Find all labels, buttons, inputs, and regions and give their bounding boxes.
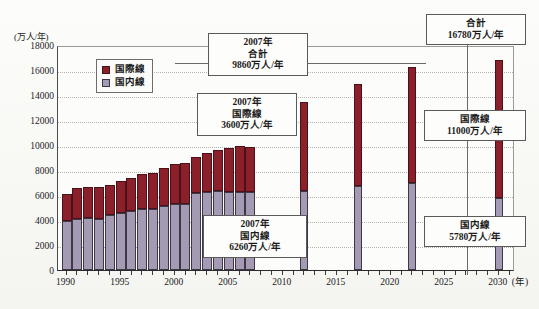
bar-segment-domestic (105, 215, 115, 270)
x-axis-tick-mark (303, 271, 304, 275)
y-axis-tick-label: 12000 (2, 117, 54, 127)
bar-segment-domestic (126, 211, 136, 271)
callout-2007-intl-line3: 3600万人/年 (204, 120, 290, 132)
x-axis-tick-mark (455, 271, 456, 275)
callout-2030-intl-line2: 11000万人/年 (431, 126, 519, 138)
bar-2002 (191, 157, 201, 270)
bar-segment-domestic (116, 213, 126, 270)
bar-2001 (180, 163, 190, 270)
bar-segment-international (408, 67, 416, 183)
bar-segment-international (213, 150, 223, 192)
x-axis-tick-mark (239, 271, 240, 275)
x-axis-tick-mark (293, 271, 294, 275)
bar-segment-international (224, 148, 234, 192)
callout-2007-dom-line2: 国内線 (210, 231, 300, 243)
bar-segment-international (94, 187, 104, 219)
callout-2030-total-line1: 合計 (433, 18, 519, 30)
bar-2022 (408, 67, 416, 270)
bar-segment-domestic (94, 219, 104, 270)
x-axis-tick-label: 2015 (326, 277, 345, 288)
legend-label-international: 国際線 (115, 64, 145, 75)
x-axis-tick-mark (271, 271, 272, 275)
bar-segment-domestic (159, 206, 169, 270)
y-axis-tick-label: 10000 (2, 142, 54, 152)
bar-1999 (159, 169, 169, 271)
x-axis-tick-mark (195, 271, 196, 275)
chart-legend: 国際線 国内線 (96, 59, 153, 93)
x-axis-tick-mark (217, 271, 218, 275)
x-axis-tick-label: 2020 (380, 277, 399, 288)
x-axis-tick-mark (163, 271, 164, 275)
x-axis-tick-label: 1995 (110, 277, 129, 288)
bar-segment-international (72, 188, 82, 219)
x-axis-tick-mark (185, 271, 186, 275)
callout-2007-total: 2007年 合計 9860万人/年 (208, 33, 308, 76)
x-axis-tick-mark (174, 271, 175, 275)
legend-swatch-domestic-icon (102, 79, 110, 87)
callout-2030-domestic: 国内線 5780万人/年 (424, 216, 526, 247)
bar-segment-international (116, 181, 126, 213)
bar-segment-international (170, 164, 180, 204)
x-axis-tick-mark (379, 271, 380, 275)
x-axis-tick-mark (509, 271, 510, 275)
x-axis-tick-mark (87, 271, 88, 275)
bar-segment-international (235, 146, 245, 191)
callout-2007-intl-line2: 国際線 (204, 109, 290, 121)
callout-2030-total-line2: 16780万人/年 (433, 30, 519, 42)
x-axis-tick-label: 1990 (56, 277, 75, 288)
bar-1997 (137, 174, 147, 270)
bar-1991 (72, 188, 82, 271)
callout-2007-dom-line1: 2007年 (210, 219, 300, 231)
bar-segment-domestic (83, 218, 93, 270)
y-axis-tick-label: 6000 (2, 192, 54, 202)
x-axis-tick-mark (260, 271, 261, 275)
callout-2007-total-line3: 9860万人/年 (215, 60, 301, 72)
x-axis-tick-label: 2025 (434, 277, 453, 288)
bar-1994 (105, 185, 115, 271)
bar-segment-international (148, 173, 158, 210)
legend-label-domestic: 国内線 (115, 77, 145, 88)
x-axis-tick-mark (325, 271, 326, 275)
bar-2017 (354, 84, 362, 270)
y-axis-tick-label: 14000 (2, 92, 54, 102)
x-axis-tick-mark (120, 271, 121, 275)
leader-line-2007-total (175, 63, 208, 64)
x-axis-tick-marks (57, 271, 514, 276)
bar-segment-domestic (170, 204, 180, 271)
callout-2030-intl-line1: 国際線 (431, 114, 519, 126)
x-axis-tick-mark (76, 271, 77, 275)
x-axis-tick-mark (347, 271, 348, 275)
x-axis-tick-mark (66, 271, 67, 275)
x-axis-tick-mark (357, 271, 358, 275)
bar-segment-domestic (180, 204, 190, 270)
bar-segment-domestic (354, 186, 362, 270)
y-axis-tick-label: 8000 (2, 167, 54, 177)
bar-segment-international (159, 168, 169, 206)
x-axis-tick-mark (206, 271, 207, 275)
y-axis-tick-labels: 1800016000140001200010000800060004000200… (0, 46, 54, 271)
bar-segment-domestic (148, 209, 158, 270)
bar-segment-international (300, 102, 308, 191)
legend-item-domestic: 国内線 (102, 76, 145, 89)
bar-1992 (83, 187, 93, 270)
y-axis-tick-label: 18000 (2, 42, 54, 52)
bar-segment-international (137, 174, 147, 209)
x-axis-tick-mark (98, 271, 99, 275)
callout-2007-total-line2: 合計 (215, 49, 301, 61)
bar-segment-international (83, 187, 93, 218)
x-axis-tick-label: 2030 (488, 277, 507, 288)
bar-2000 (170, 164, 180, 270)
legend-item-international: 国際線 (102, 63, 145, 76)
x-axis-tick-mark (228, 271, 229, 275)
x-axis-tick-label: 2005 (218, 277, 237, 288)
callout-2030-international: 国際線 11000万人/年 (424, 110, 526, 141)
bar-segment-international (245, 147, 255, 192)
x-axis-tick-labels: 199019952000200520102015202020252030(年) (0, 277, 539, 293)
bar-1998 (148, 173, 158, 271)
x-axis-tick-mark (368, 271, 369, 275)
bar-segment-domestic (62, 221, 72, 271)
x-axis-tick-mark (476, 271, 477, 275)
bar-segment-international (126, 178, 136, 211)
callout-2030-dom-line2: 5780万人/年 (431, 232, 519, 244)
chart-figure: (万人/年) 180001600014000120001000080006000… (0, 0, 539, 309)
